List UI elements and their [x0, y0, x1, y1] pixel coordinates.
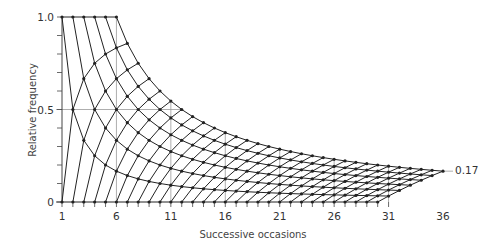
failure-curve: [171, 137, 236, 202]
failure-curve: [204, 147, 269, 203]
success-curve: [95, 17, 422, 180]
endpoint-annotation: 0.17: [455, 164, 478, 176]
x-tick-label: 21: [273, 210, 286, 222]
x-tick-label: 11: [164, 210, 177, 222]
y-axis-title: Relative frequency: [27, 63, 38, 157]
y-tick-label: 0.5: [37, 104, 54, 116]
x-tick-label: 26: [327, 210, 341, 222]
y-tick-label: 1.0: [37, 11, 54, 23]
success-curve: [106, 17, 433, 176]
success-curve: [73, 17, 400, 190]
x-tick-label: 6: [113, 210, 120, 222]
x-axis-title: Successive occasions: [199, 229, 306, 240]
x-tick-label: 16: [219, 210, 233, 222]
failure-curve: [95, 91, 160, 202]
x-tick-label: 1: [59, 210, 66, 222]
failure-curve: [73, 63, 138, 202]
x-tick-label: 31: [382, 210, 395, 222]
failure-curve: [106, 101, 171, 202]
y-tick-label: 0: [47, 196, 54, 208]
failure-curve: [62, 43, 127, 202]
x-tick-label: 36: [436, 210, 450, 222]
failure-curve: [182, 140, 247, 202]
relative-frequency-chart: 00.51.016111621263136 Successive occasio…: [0, 0, 491, 247]
